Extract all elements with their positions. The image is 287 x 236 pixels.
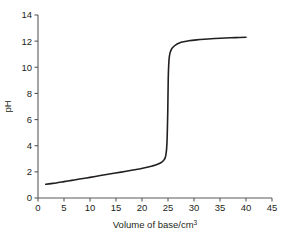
x-axis-title-text: Volume of base/cm xyxy=(113,219,194,230)
x-axis-title-superscript: 3 xyxy=(194,219,198,226)
chart-canvas: 02468101214 051015202530354045 pH Volume… xyxy=(0,0,287,236)
y-axis-tick-label: 2 xyxy=(27,166,32,177)
y-axis-tick-label: 12 xyxy=(21,36,32,47)
x-axis-tick-label: 5 xyxy=(61,202,66,213)
x-axis-tick-label: 40 xyxy=(241,202,252,213)
y-axis-tick-label: 4 xyxy=(27,140,32,151)
x-axis-tick-label: 15 xyxy=(111,202,122,213)
x-axis-tick-label: 0 xyxy=(35,202,40,213)
x-axis-tick-label: 20 xyxy=(137,202,148,213)
y-axis-title: pH xyxy=(2,100,13,112)
titration-chart: 02468101214 051015202530354045 pH Volume… xyxy=(0,0,287,236)
x-axis-tick-label: 10 xyxy=(85,202,96,213)
x-axis-tick-label: 35 xyxy=(215,202,226,213)
y-axis-tick-label: 0 xyxy=(27,192,32,203)
x-axis-tick-label: 25 xyxy=(163,202,174,213)
y-axis-tick-label: 6 xyxy=(27,114,32,125)
x-axis-title: Volume of base/cm3 xyxy=(113,219,198,231)
x-axis-tick-label: 30 xyxy=(189,202,200,213)
chart-background xyxy=(0,0,287,236)
x-axis-tick-label: 45 xyxy=(267,202,278,213)
y-axis-tick-label: 10 xyxy=(21,62,32,73)
y-axis-tick-label: 14 xyxy=(21,9,32,20)
y-axis-tick-label: 8 xyxy=(27,88,32,99)
